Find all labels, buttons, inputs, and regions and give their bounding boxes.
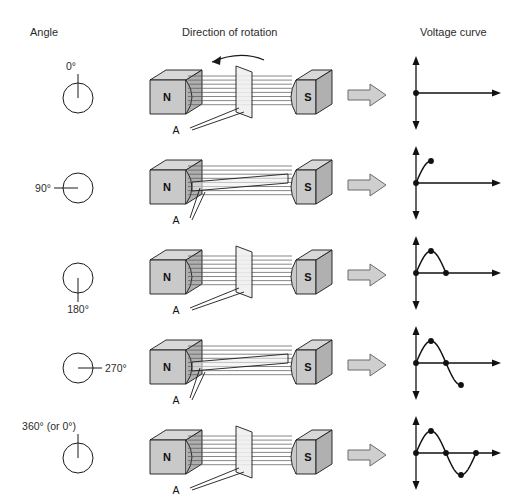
arrow-cell <box>340 406 402 496</box>
time-axis-arrow-right <box>492 450 501 457</box>
coil-lead-label: A <box>172 394 179 406</box>
magnet-coil-assembly: N A S <box>140 406 340 496</box>
south-magnet-block: S <box>291 160 332 204</box>
magnet-coil-assembly: N A S <box>140 316 340 406</box>
south-pole-label: S <box>304 361 311 373</box>
diagram-row: 0° N A S <box>0 46 510 136</box>
angle-indicator: 180° <box>0 226 140 316</box>
rotation-cell: N A S <box>140 316 340 406</box>
rotating-coil-loop <box>192 354 288 371</box>
voltage-axis-arrow-up <box>413 236 420 245</box>
angle-value-label: 270° <box>105 362 127 374</box>
sine-voltage-path <box>416 161 431 183</box>
angle-cell: 270° <box>0 316 140 406</box>
time-axis-arrow-right <box>492 180 501 187</box>
header-direction-of-rotation: Direction of rotation <box>182 26 277 38</box>
header-voltage-curve: Voltage curve <box>420 26 487 38</box>
angle-value-label: 180° <box>67 303 89 315</box>
angle-cell: 180° <box>0 226 140 316</box>
header-angle: Angle <box>30 26 58 38</box>
voltage-axis-arrow-down <box>413 301 420 310</box>
rotation-cell: N A S <box>140 406 340 496</box>
voltage-axis-arrow-up <box>413 146 420 155</box>
rotation-cell: N A S <box>140 226 340 316</box>
time-axis-arrow-right <box>492 360 501 367</box>
voltage-data-point <box>413 360 419 366</box>
voltage-cell <box>402 406 510 496</box>
voltage-axis-arrow-up <box>413 56 420 65</box>
coil-lead-label: A <box>172 124 179 136</box>
voltage-axis-arrow-down <box>413 121 420 130</box>
north-pole-label: N <box>163 271 171 283</box>
voltage-data-point <box>413 270 419 276</box>
voltage-curve-plot <box>402 226 510 316</box>
angle-cell: 0° <box>0 46 140 136</box>
rotation-cell: N A S <box>140 136 340 226</box>
angle-indicator: 90° <box>0 136 140 226</box>
south-magnet-block: S <box>291 250 332 294</box>
voltage-data-point <box>428 428 434 434</box>
north-pole-label: N <box>163 451 171 463</box>
voltage-data-point <box>428 248 434 254</box>
rotating-coil-loop <box>192 174 288 191</box>
south-pole-label: S <box>304 91 311 103</box>
angle-indicator: 270° <box>0 316 140 406</box>
voltage-axis-arrow-up <box>413 326 420 335</box>
block-arrow-shape <box>348 444 386 466</box>
voltage-data-point <box>443 270 449 276</box>
coil-lead-label: A <box>172 304 179 316</box>
arrow-cell <box>340 226 402 316</box>
column-headers: Angle Direction of rotation Voltage curv… <box>0 0 510 46</box>
angle-value-label: 360° (or 0°) <box>22 420 76 432</box>
rotating-coil-loop <box>236 66 252 118</box>
sine-voltage-path <box>416 251 446 273</box>
south-pole-label: S <box>304 271 311 283</box>
voltage-data-point <box>443 360 449 366</box>
voltage-axis-arrow-down <box>413 391 420 400</box>
voltage-cell <box>402 136 510 226</box>
angle-indicator: 0° <box>0 46 140 136</box>
voltage-axis-arrow-down <box>413 481 420 490</box>
rotation-cell: N A S <box>140 46 340 136</box>
coil-lead-label: A <box>172 484 179 496</box>
block-arrow-shape <box>348 264 386 286</box>
magnet-coil-assembly: N A S <box>140 46 340 136</box>
flow-block-arrow <box>340 136 402 226</box>
voltage-curve-plot <box>402 46 510 136</box>
rotating-coil-loop <box>236 246 252 298</box>
north-magnet-block: N <box>150 430 202 474</box>
flow-block-arrow <box>340 316 402 406</box>
rotation-direction-arrowhead <box>212 56 221 65</box>
north-pole-label: N <box>163 91 171 103</box>
flow-block-arrow <box>340 46 402 136</box>
arrow-cell <box>340 316 402 406</box>
angle-value-label: 90° <box>35 182 51 194</box>
voltage-axis-arrow-down <box>413 211 420 220</box>
south-magnet-block: S <box>291 430 332 474</box>
time-axis-arrow-right <box>492 270 501 277</box>
block-arrow-shape <box>348 84 386 106</box>
magnet-coil-assembly: N A S <box>140 136 340 226</box>
voltage-cell <box>402 46 510 136</box>
block-arrow-shape <box>348 354 386 376</box>
voltage-data-point <box>458 382 464 388</box>
time-axis-arrow-right <box>492 90 501 97</box>
voltage-data-point <box>458 472 464 478</box>
flow-block-arrow <box>340 406 402 496</box>
voltage-data-point <box>428 338 434 344</box>
block-arrow-shape <box>348 174 386 196</box>
south-magnet-block: S <box>291 340 332 384</box>
voltage-curve-plot <box>402 136 510 226</box>
magnet-coil-assembly: N A S <box>140 226 340 316</box>
south-magnet-block: S <box>291 70 332 114</box>
arrow-cell <box>340 136 402 226</box>
diagram-row: 360° (or 0°) N A S <box>0 406 510 496</box>
voltage-cell <box>402 316 510 406</box>
north-pole-label: N <box>163 361 171 373</box>
voltage-data-point <box>473 450 479 456</box>
rotating-coil-loop <box>236 426 252 478</box>
voltage-curve-plot <box>402 316 510 406</box>
voltage-curve-plot <box>402 406 510 496</box>
diagram-row: 270° N A S <box>0 316 510 406</box>
north-pole-label: N <box>163 181 171 193</box>
